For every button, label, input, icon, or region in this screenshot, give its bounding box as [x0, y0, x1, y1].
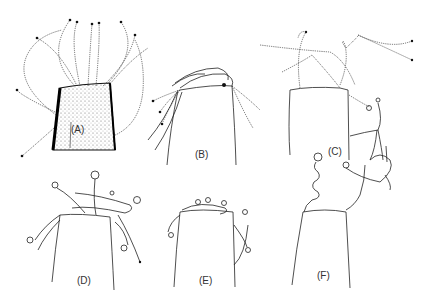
panel-label-a: (A) [71, 124, 84, 135]
panel-a [16, 19, 148, 158]
panel-label-b: (B) [195, 149, 208, 160]
panel-label-e: (E) [199, 275, 212, 286]
panel-label-d: (D) [77, 275, 91, 286]
panel-label-c: (C) [328, 146, 342, 157]
panel-f [292, 153, 391, 288]
panel-c [260, 31, 413, 162]
figure-drawing [0, 0, 433, 301]
panel-e [168, 198, 251, 288]
panel-label-f: (F) [317, 270, 330, 281]
panel-d [27, 171, 141, 290]
